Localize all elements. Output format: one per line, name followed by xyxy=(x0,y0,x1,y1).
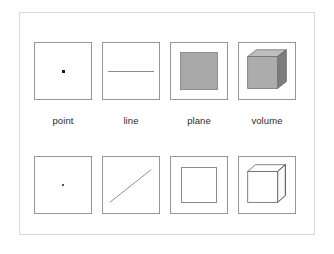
label-point: point xyxy=(34,115,92,126)
label-plane: plane xyxy=(170,115,228,126)
cell-point-small xyxy=(34,156,92,214)
cell-plane-filled xyxy=(170,42,228,100)
wireframe-cube-icon xyxy=(239,157,295,213)
cell-line-diagonal xyxy=(102,156,160,214)
horizontal-line-icon xyxy=(108,71,154,72)
label-line: line xyxy=(102,115,160,126)
cell-point-filled xyxy=(34,42,92,100)
outline-square-icon xyxy=(181,167,217,203)
label-volume: volume xyxy=(238,115,296,126)
page-marker: . xyxy=(164,241,168,245)
filled-square-icon xyxy=(180,52,218,90)
cell-plane-outline xyxy=(170,156,228,214)
cell-line-horizontal xyxy=(102,42,160,100)
diagonal-line-icon xyxy=(103,157,159,213)
point-dot-icon xyxy=(62,70,65,73)
cell-volume-wireframe xyxy=(238,156,296,214)
shaded-cube-icon xyxy=(239,43,295,99)
figure-root: point line plane volume . xyxy=(0,0,334,254)
cell-volume-shaded xyxy=(238,42,296,100)
point-dot-small-icon xyxy=(62,184,64,186)
